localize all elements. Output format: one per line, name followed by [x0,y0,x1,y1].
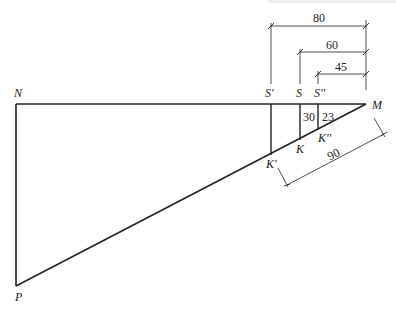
edge-PM [16,104,366,286]
dim-value-30: 30 [303,110,315,124]
label-S: S [296,86,302,100]
label-K-prime: K' [265,157,277,171]
dim-value-80: 80 [313,11,325,25]
extension-K-prime [278,168,288,187]
dim-value-90: 90 [325,145,342,163]
label-S-prime: S' [265,86,274,100]
label-S-dprime: S'' [314,86,326,100]
dim-value-23: 23 [322,110,334,124]
label-K-dprime: K'' [317,131,332,145]
dim-value-60: 60 [326,38,338,52]
label-P: P [14,290,23,304]
label-M: M [371,98,383,112]
dim-value-45: 45 [335,60,347,74]
triangle-diagram: N M P S' S S'' K' K K'' 80 60 45 30 23 9… [0,0,396,309]
label-K: K [295,142,305,156]
label-N: N [13,86,23,100]
